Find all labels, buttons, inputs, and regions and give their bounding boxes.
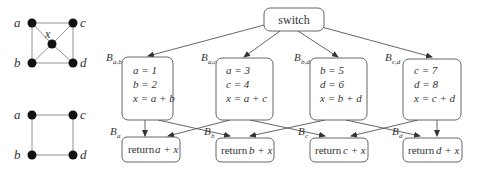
node-a [28,111,37,120]
block-line: d = 6 [320,78,344,90]
node-b [28,151,37,160]
block-line: b = 2 [133,78,157,90]
block-name: B [392,125,399,137]
block-line: c = 7 [414,64,438,76]
block-bd: B b,d b = 5 d = 6 x = b + d [294,51,367,120]
node-d [69,151,78,160]
block-cd: B c,d c = 7 d = 8 x = c + d [385,51,461,120]
block-line: a = 3 [226,64,250,76]
node-d [69,59,78,68]
switch-node: switch [264,8,324,31]
block-name: B [385,51,392,63]
block-sub: a,b [113,58,122,66]
return-keyword: return [128,143,155,155]
switch-label: switch [278,13,309,27]
node-label-x: x [44,27,51,41]
block-name: B [298,125,305,137]
node-b [28,59,37,68]
node-label-c: c [80,15,86,30]
return-d: B d return d + x [392,125,462,162]
node-c [69,19,78,28]
interference-graph-full: a c x b d [14,15,87,70]
node-label-d: d [80,147,87,162]
interference-graph-reduced: a c b d [14,107,87,162]
node-label-c: c [80,107,86,122]
node-label-a: a [14,15,21,30]
block-line: a = 1 [133,64,157,76]
return-keyword: return [408,144,435,156]
block-line: x = a + c [225,92,267,104]
return-c: B c return c + x [298,125,368,162]
block-sub: c [305,132,309,140]
return-keyword: return [221,144,248,156]
node-label-a: a [14,107,21,122]
block-sub: d [399,132,403,140]
block-sub: b,d [301,58,310,66]
block-sub: c,d [392,58,401,66]
block-ac: B a,c a = 3 c = 4 x = a + c [201,51,273,120]
return-keyword: return [315,144,342,156]
block-line: x = c + d [413,92,456,104]
block-ab: B a,b a = 1 b = 2 x = a + b [106,51,175,120]
diagram-canvas: a c x b d a c b d [0,0,477,176]
node-label-b: b [14,55,21,70]
return-expr: a + x [155,143,178,155]
node-label-b: b [14,147,21,162]
block-line: x = a + b [132,92,175,104]
return-b: B b return b + x [204,125,274,162]
return-expr: b + x [249,144,272,156]
block-name: B [204,125,211,137]
node-c [69,111,78,120]
block-name: B [110,125,117,137]
block-name: B [294,51,301,63]
flow-edges [145,24,437,136]
block-name: B [106,51,113,63]
node-label-d: d [80,55,87,70]
block-name: B [201,51,208,63]
block-line: d = 8 [414,78,438,90]
block-sub: b [211,132,215,140]
block-line: b = 5 [320,64,344,76]
block-line: x = b + d [319,92,362,104]
block-sub: a [117,132,121,140]
block-line: c = 4 [226,78,250,90]
node-a [28,19,37,28]
return-expr: d + x [436,144,459,156]
return-expr: c + x [343,144,366,156]
